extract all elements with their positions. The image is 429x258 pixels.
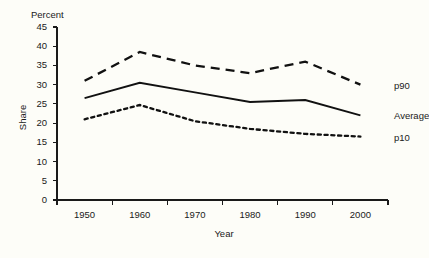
- x-axis-tick-label: 2000: [340, 210, 380, 220]
- y-axis-tick-label: 25: [25, 99, 47, 109]
- chart-series-group: [85, 52, 361, 137]
- x-axis-tick-label: 1980: [230, 210, 270, 220]
- x-axis-tick-label: 1990: [285, 210, 325, 220]
- y-axis-tick-label: 35: [25, 60, 47, 70]
- y-axis-tick-label: 0: [25, 195, 47, 205]
- chart-axes: [53, 27, 388, 205]
- x-axis-title: Year: [200, 228, 248, 239]
- x-axis-tick-label: 1950: [65, 210, 105, 220]
- y-axis-tick-label: 40: [25, 41, 47, 51]
- series-label-average: Average: [394, 110, 429, 121]
- series-label-p90: p90: [394, 80, 410, 91]
- y-axis-tick-label: 5: [25, 176, 47, 186]
- x-axis-tick-label: 1970: [175, 210, 215, 220]
- y-axis-tick-label: 20: [25, 118, 47, 128]
- y-axis-tick-label: 10: [25, 157, 47, 167]
- series-label-p10: p10: [394, 132, 410, 143]
- y-axis-tick-label: 45: [25, 22, 47, 32]
- series-line-p10: [85, 105, 361, 137]
- x-axis-tick-label: 1960: [120, 210, 160, 220]
- y-axis-tick-label: 15: [25, 137, 47, 147]
- y-axis-ticks: [53, 27, 57, 200]
- y-axis-unit-label: Percent: [31, 10, 64, 20]
- series-line-p90: [85, 52, 361, 85]
- series-line-average: [85, 83, 361, 116]
- y-axis-tick-label: 30: [25, 80, 47, 90]
- x-axis-ticks: [57, 200, 388, 205]
